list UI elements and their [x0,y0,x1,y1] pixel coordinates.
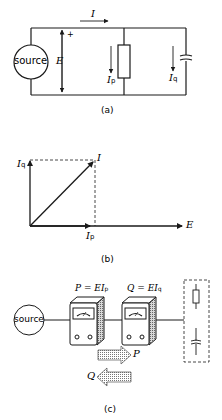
varmeter-icon [122,297,156,345]
source-label-a: source [14,55,47,66]
panel-b-phasor [30,160,182,226]
capacitor-current-label: Iq [169,72,177,83]
resistor-current-label: Ip [107,74,115,85]
plus-sign: + [67,30,74,39]
iq-axis-label: Iq [17,158,25,169]
i-vector-label: I [97,152,101,163]
real-power-arrow-icon [98,346,131,364]
capacitor-plate-2 [180,59,192,60]
wattmeter-formula: P = EIp [75,283,108,293]
load-resistor-icon [193,290,199,303]
reactive-power-label: Q [87,370,95,381]
source-label-c: source [14,314,44,324]
current-label: I [91,8,95,19]
resistor-current-subscript: p [111,77,115,85]
wattmeter-formula-text: P = EI [75,283,104,293]
varmeter-formula-text: Q = EI [127,283,158,293]
varmeter-formula: Q = EIq [127,283,162,293]
resistor-icon [118,45,130,78]
caption-b: (b) [101,254,114,264]
varmeter-formula-sub: q [158,285,162,292]
e-axis-label: E [186,219,193,230]
capacitor-current-subscript: q [173,75,177,83]
i-vector-arrow-icon [30,162,93,226]
wattmeter-formula-sub: p [104,285,108,292]
reactive-power-arrow-icon [97,368,131,386]
iq-subscript: q [21,161,25,169]
capacitor-icon [180,55,192,56]
real-power-label: P [133,348,140,359]
wattmeter-icon [70,297,104,345]
caption-a: (a) [101,105,114,115]
ip-subscript: p [90,233,94,241]
ip-label: Ip [86,230,94,241]
voltage-label: E [56,55,63,66]
caption-c: (c) [104,404,116,414]
